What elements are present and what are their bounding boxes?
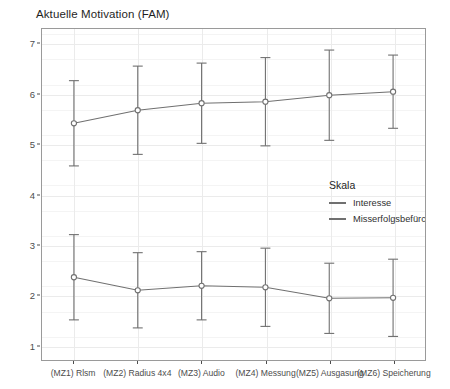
data-point bbox=[71, 275, 76, 280]
x-tick-mark bbox=[73, 361, 74, 364]
y-tick-mark bbox=[37, 245, 40, 246]
chart-container: Aktuelle Motivation (FAM) Wertebereich (… bbox=[0, 0, 450, 389]
y-tick-label: 4 bbox=[30, 189, 35, 200]
y-tick-mark bbox=[37, 295, 40, 296]
x-tick-mark bbox=[394, 361, 395, 364]
x-tick-label: (MZ6) Speicherung bbox=[357, 368, 431, 378]
data-point bbox=[327, 296, 332, 301]
x-tick-label: (MZ3) Audio bbox=[178, 368, 225, 378]
x-tick-mark bbox=[266, 361, 267, 364]
data-point bbox=[327, 93, 332, 98]
y-tick-label: 7 bbox=[30, 38, 35, 49]
series-line bbox=[74, 92, 393, 124]
data-point bbox=[71, 121, 76, 126]
series-2 bbox=[69, 235, 398, 337]
chart-title: Aktuelle Motivation (FAM) bbox=[36, 8, 170, 20]
legend-title: Skala bbox=[329, 179, 426, 191]
data-point bbox=[263, 99, 268, 104]
y-tick-label: 5 bbox=[30, 139, 35, 150]
data-point bbox=[199, 283, 204, 288]
x-tick-label: (MZ4) Messung bbox=[236, 368, 296, 378]
y-tick-mark bbox=[37, 43, 40, 44]
y-tick-label: 1 bbox=[30, 340, 35, 351]
x-tick-label: (MZ1) Rlsm bbox=[51, 368, 96, 378]
plot-panel: Skala InteresseMisserfolgsbefürchtung bbox=[41, 28, 426, 361]
series-line bbox=[74, 277, 393, 298]
x-tick-mark bbox=[137, 361, 138, 364]
y-tick-label: 6 bbox=[30, 88, 35, 99]
legend-label: Interesse bbox=[353, 198, 391, 208]
x-tick-label: (MZ5) Ausgasung bbox=[296, 368, 364, 378]
data-point bbox=[135, 108, 140, 113]
y-tick-label: 3 bbox=[30, 240, 35, 251]
legend-item-1: Interesse bbox=[329, 198, 426, 208]
y-tick-mark bbox=[37, 93, 40, 94]
legend-key-line-icon bbox=[329, 202, 346, 204]
legend-key-line-icon bbox=[329, 218, 346, 220]
legend: Skala InteresseMisserfolgsbefürchtung bbox=[329, 179, 426, 230]
y-tick-mark bbox=[37, 345, 40, 346]
data-point bbox=[390, 89, 395, 94]
data-point bbox=[199, 101, 204, 106]
data-point bbox=[135, 288, 140, 293]
y-tick-mark bbox=[37, 194, 40, 195]
series-1 bbox=[69, 50, 398, 166]
x-tick-label: (MZ2) Radius 4x4 bbox=[103, 368, 171, 378]
legend-item-2: Misserfolgsbefürchtung bbox=[329, 214, 426, 224]
y-tick-label: 2 bbox=[30, 290, 35, 301]
data-point bbox=[390, 295, 395, 300]
y-tick-mark bbox=[37, 144, 40, 145]
x-tick-mark bbox=[201, 361, 202, 364]
legend-label: Misserfolgsbefürchtung bbox=[353, 214, 426, 224]
data-point bbox=[263, 285, 268, 290]
x-tick-mark bbox=[330, 361, 331, 364]
